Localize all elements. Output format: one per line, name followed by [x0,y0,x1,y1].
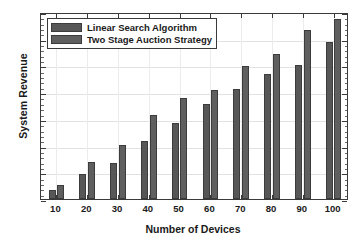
bar-two-stage-auction-strategy-50 [180,98,187,199]
x-axis-tick-label: 80 [256,203,286,214]
x-axis-tick-label: 50 [164,203,194,214]
bar-linear-search-algorithm-80 [264,74,271,199]
bar-linear-search-algorithm-60 [203,104,210,199]
legend-swatch-series-1 [51,23,82,32]
x-axis-tick-label: 30 [102,203,132,214]
x-axis-tick-label: 90 [287,203,317,214]
x-axis-tick-label: 40 [133,203,163,214]
bar-linear-search-algorithm-40 [141,141,148,199]
bar-two-stage-auction-strategy-100 [334,19,341,199]
legend-item: Linear Search Algorithm [51,22,212,33]
chart-legend: Linear Search Algorithm Two Stage Auctio… [47,18,217,49]
bar-two-stage-auction-strategy-20 [88,162,95,199]
plot-area: Linear Search Algorithm Two Stage Auctio… [40,13,348,200]
x-axis-tick-label: 20 [71,203,101,214]
x-axis-label: Number of Devices [38,223,348,235]
x-axis-tick-label: 60 [194,203,224,214]
chart-figure: System Revenue Number of Devices 0100200… [0,0,359,243]
x-axis-tick-label: 100 [318,203,348,214]
y-axis-tick [41,201,46,202]
bar-linear-search-algorithm-10 [49,190,56,199]
bar-two-stage-auction-strategy-30 [119,145,126,199]
bar-two-stage-auction-strategy-90 [304,30,311,199]
y-axis-tick [342,201,347,202]
bar-two-stage-auction-strategy-70 [242,66,249,199]
legend-label-series-2: Two Stage Auction Strategy [87,35,212,44]
bar-two-stage-auction-strategy-60 [211,90,218,199]
y-axis-label: System Revenue [17,26,29,166]
bar-linear-search-algorithm-20 [79,174,86,199]
bar-two-stage-auction-strategy-80 [273,54,280,199]
bar-linear-search-algorithm-30 [110,163,117,199]
x-axis-tick-label: 70 [225,203,255,214]
bar-two-stage-auction-strategy-10 [57,185,64,199]
bar-linear-search-algorithm-70 [233,89,240,199]
bar-two-stage-auction-strategy-40 [150,115,157,199]
legend-item: Two Stage Auction Strategy [51,34,212,45]
bar-linear-search-algorithm-100 [326,42,333,199]
legend-label-series-1: Linear Search Algorithm [87,23,197,32]
bar-linear-search-algorithm-90 [295,65,302,199]
bar-linear-search-algorithm-50 [172,123,179,199]
legend-swatch-series-2 [51,35,82,44]
x-axis-tick-label: 10 [40,203,70,214]
